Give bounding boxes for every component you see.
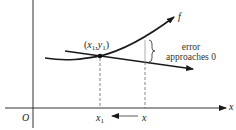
x1-tick-label: x1 — [96, 113, 104, 125]
tangent-point — [98, 54, 103, 59]
error-brace — [149, 40, 155, 62]
error-annotation-line2: approaches 0 — [156, 52, 226, 62]
x1-tick-sub: 1 — [100, 117, 104, 125]
curve-f — [45, 17, 174, 60]
error-annotation-line1: error — [156, 42, 226, 52]
point-label-close: ) — [106, 39, 109, 50]
x-axis-label: x — [229, 102, 233, 112]
error-annotation: error approaches 0 — [156, 42, 226, 62]
curve-label-f: f — [178, 12, 181, 22]
origin-label: O — [22, 113, 29, 123]
diagram-canvas — [0, 0, 236, 130]
tangent-approximation-diagram: f (x1,y1) error approaches 0 x O x1 x — [0, 0, 236, 130]
x-tick-label: x — [142, 113, 146, 123]
point-label: (x1,y1) — [84, 40, 109, 52]
